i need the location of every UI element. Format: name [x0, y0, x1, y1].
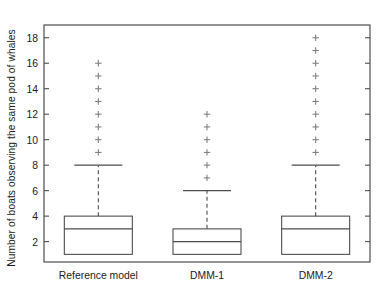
- y-tick-label-4: 4: [18, 211, 38, 222]
- box-reference-model-box: [64, 216, 132, 254]
- y-tick-label-12: 12: [18, 109, 38, 120]
- plot-canvas: [0, 0, 380, 296]
- y-tick-label-6: 6: [18, 185, 38, 196]
- y-tick-label-10: 10: [18, 134, 38, 145]
- boxplot-figure: Number of boats observing the same pod o…: [0, 0, 380, 296]
- x-label-reference-model: Reference model: [59, 270, 138, 281]
- x-label-dmm-2: DMM-2: [299, 270, 333, 281]
- y-tick-label-2: 2: [18, 236, 38, 247]
- y-axis-label-container: Number of boats observing the same pod o…: [0, 0, 22, 296]
- y-tick-label-18: 18: [18, 32, 38, 43]
- x-label-dmm-1: DMM-1: [190, 270, 224, 281]
- y-tick-label-16: 16: [18, 58, 38, 69]
- y-tick-label-14: 14: [18, 83, 38, 94]
- y-axis-label: Number of boats observing the same pod o…: [6, 29, 17, 267]
- y-tick-label-8: 8: [18, 160, 38, 171]
- box-dmm-2-box: [282, 216, 350, 254]
